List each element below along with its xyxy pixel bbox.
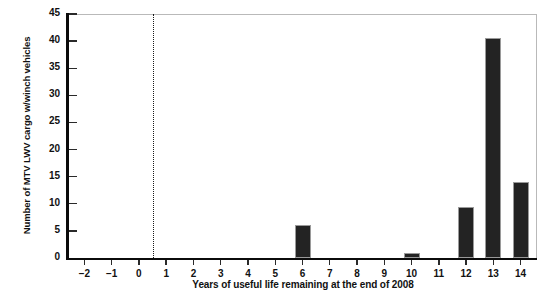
y-tick-mark: [69, 13, 77, 14]
y-tick-mark: [69, 122, 77, 123]
x-tick-label: 7: [315, 269, 345, 279]
x-tick-label: 10: [397, 269, 427, 279]
y-tick-label: 40: [36, 35, 60, 45]
x-tick-label: 5: [260, 269, 290, 279]
x-tick-mark: [275, 260, 276, 265]
x-tick-mark: [465, 260, 466, 265]
x-tick-mark: [165, 260, 166, 265]
bar: [485, 38, 501, 258]
x-tick-mark: [193, 260, 194, 265]
reference-line: [153, 14, 154, 258]
x-tick-label: 12: [451, 269, 481, 279]
x-tick-label: 9: [369, 269, 399, 279]
y-tick-mark: [69, 203, 77, 204]
x-tick-label: −1: [97, 269, 127, 279]
bar: [458, 207, 474, 259]
plot-area: 051015202530354045 −2−101234567891011121…: [68, 14, 537, 258]
x-tick-mark: [138, 260, 139, 265]
y-tick-mark: [69, 68, 77, 69]
y-tick-mark: [69, 95, 77, 96]
x-tick-mark: [356, 260, 357, 265]
x-tick-mark: [384, 260, 385, 265]
x-tick-mark: [411, 260, 412, 265]
x-tick-label: 0: [124, 269, 154, 279]
y-tick-mark: [69, 230, 77, 231]
y-tick-mark: [69, 149, 77, 150]
x-tick-mark: [111, 260, 112, 265]
x-tick-label: 2: [178, 269, 208, 279]
y-tick-mark: [69, 176, 77, 177]
y-axis-title: Number of MTV LWV cargo w/winch vehicles: [21, 6, 32, 266]
y-tick-label: 10: [36, 198, 60, 208]
y-tick-label: 30: [36, 89, 60, 99]
y-tick-label: 0: [36, 252, 60, 262]
bar: [513, 182, 529, 258]
x-tick-mark: [220, 260, 221, 265]
y-tick-label: 20: [36, 144, 60, 154]
x-axis-title: Years of useful life remaining at the en…: [68, 279, 538, 290]
y-tick-label: 15: [36, 171, 60, 181]
plot-frame-top: [68, 14, 537, 15]
x-tick-mark: [329, 260, 330, 265]
x-tick-mark: [247, 260, 248, 265]
x-tick-label: 6: [288, 269, 318, 279]
x-tick-mark: [84, 260, 85, 265]
plot-frame-right: [536, 14, 537, 258]
y-axis-line: [66, 13, 69, 259]
chart-figure: Number of MTV LWV cargo w/winch vehicles…: [0, 0, 549, 301]
y-tick-label: 5: [36, 225, 60, 235]
y-tick-label: 45: [36, 8, 60, 18]
x-tick-mark: [520, 260, 521, 265]
bar: [404, 253, 420, 258]
x-tick-label: −2: [69, 269, 99, 279]
x-tick-label: 11: [424, 269, 454, 279]
x-tick-label: 3: [206, 269, 236, 279]
x-tick-mark: [438, 260, 439, 265]
x-tick-mark: [493, 260, 494, 265]
x-tick-label: 1: [151, 269, 181, 279]
x-tick-label: 8: [342, 269, 372, 279]
x-tick-mark: [302, 260, 303, 265]
x-tick-label: 13: [478, 269, 508, 279]
x-tick-label: 4: [233, 269, 263, 279]
y-tick-mark: [69, 40, 77, 41]
x-tick-label: 14: [506, 269, 536, 279]
bar: [295, 225, 311, 258]
y-tick-label: 35: [36, 62, 60, 72]
y-tick-label: 25: [36, 116, 60, 126]
